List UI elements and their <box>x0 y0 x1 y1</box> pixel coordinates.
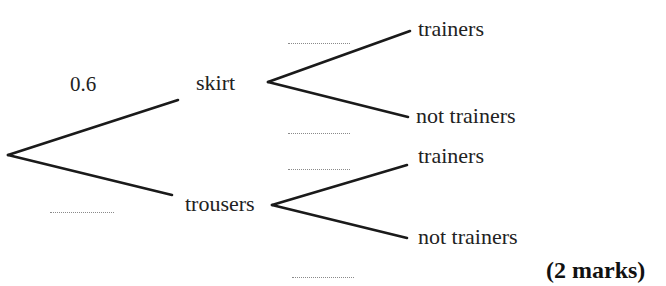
outcome-label-skirt-trainers: trainers <box>418 18 484 40</box>
branch-skirt-not-trainers <box>268 82 408 117</box>
probability-skirt: 0.6 <box>70 74 96 95</box>
branch-skirt-trainers <box>268 31 410 82</box>
outcome-label-trousers-not-trainers: not trainers <box>418 226 518 248</box>
node-label-trousers: trousers <box>185 193 255 215</box>
branch-root-skirt <box>8 100 178 155</box>
probability-tree-diagram: 0.6 skirt trousers trainers not trainers… <box>0 0 666 286</box>
branch-trousers-trainers <box>272 165 407 205</box>
branch-trousers-not-trainers <box>272 205 407 238</box>
branch-root-trousers <box>8 155 172 195</box>
outcome-label-skirt-not-trainers: not trainers <box>416 105 516 127</box>
answer-blank-skirt-trainers[interactable] <box>288 43 350 44</box>
marks-label: (2 marks) <box>546 258 645 282</box>
answer-blank-trousers-not-trainers[interactable] <box>292 277 354 278</box>
node-label-skirt: skirt <box>196 72 235 94</box>
answer-blank-trousers[interactable] <box>50 212 114 213</box>
answer-blank-skirt-not-trainers[interactable] <box>288 133 350 134</box>
answer-blank-trousers-trainers[interactable] <box>288 169 350 170</box>
outcome-label-trousers-trainers: trainers <box>418 145 484 167</box>
